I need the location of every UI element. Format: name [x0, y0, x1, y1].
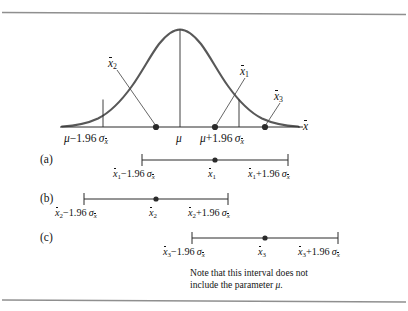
- sample-label-xbar1: x1: [240, 66, 249, 79]
- dot-xbar3: [262, 124, 268, 130]
- interval-c-center-caption: x3: [258, 247, 266, 259]
- dot-xbar2: [153, 124, 159, 130]
- sample-label-xbar2: x2: [108, 58, 117, 71]
- bottom-rule: [2, 300, 406, 302]
- interval-b-center-caption: x2: [149, 208, 157, 220]
- leader-xbar3: [266, 103, 280, 125]
- axis-tick-label-mu-plus: μ+1.96 σx: [200, 133, 244, 146]
- interval-a-left-caption: x1−1.96 σx: [113, 169, 155, 181]
- interval-c-center-dot: [262, 235, 267, 240]
- interval-b-center-dot: [153, 196, 158, 201]
- interval-a-right-caption: x1+1.96 σx: [248, 169, 290, 181]
- axis-label-xbar: x: [303, 121, 308, 133]
- axis-tick-label-mu-minus: μ−1.96 σx: [64, 133, 108, 146]
- panel-label-b: (b): [40, 193, 53, 205]
- sample-label-xbar3: x3: [274, 91, 283, 104]
- panel-label-c: (c): [40, 232, 53, 244]
- figure-graphics: [0, 0, 408, 311]
- interval-c-note: Note that this interval does not include…: [190, 267, 370, 292]
- note-line-2-post: .: [280, 279, 282, 290]
- note-line-2-pre: include the parameter: [190, 279, 276, 290]
- interval-b-right-caption: x2+1.96 σx: [188, 208, 230, 220]
- confidence-interval-figure: x μ−1.96 σx μ μ+1.96 σx x2 x1 x3 (a) (b)…: [0, 0, 408, 311]
- dot-xbar1: [212, 124, 218, 130]
- interval-c-right-caption: x3+1.96 σx: [298, 247, 340, 259]
- interval-a-center-dot: [212, 157, 217, 162]
- interval-b-left-caption: x2−1.96 σx: [55, 208, 97, 220]
- note-line-1: Note that this interval does not: [190, 267, 308, 278]
- interval-c-left-caption: x3−1.96 σx: [163, 247, 205, 259]
- panel-label-a: (a): [40, 154, 53, 166]
- interval-a-center-caption: x1: [208, 169, 216, 181]
- top-rule: [2, 13, 406, 15]
- axis-tick-label-mu: μ: [176, 133, 182, 145]
